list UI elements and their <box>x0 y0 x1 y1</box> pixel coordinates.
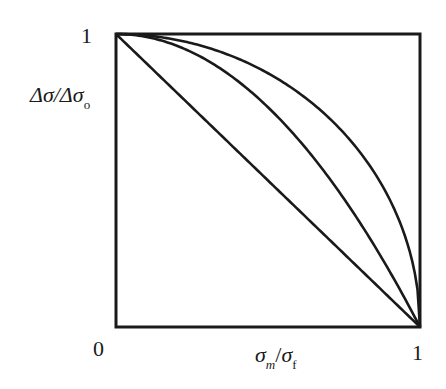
y-axis-title: Δσ/Δσo <box>30 84 90 106</box>
x-axis-title-denominator-subscript: f <box>292 357 296 372</box>
series-line-1 <box>116 34 420 327</box>
chart-plot <box>0 0 446 389</box>
x-tick-1: 1 <box>412 342 423 364</box>
y-axis-title-main: Δσ/Δσ <box>30 82 84 107</box>
x-axis-title-numerator: σ <box>255 342 266 367</box>
x-axis-title-denominator: σ <box>281 342 292 367</box>
x-axis-title: σm/σf <box>255 344 297 366</box>
y-tick-1: 1 <box>81 25 92 47</box>
series-group <box>116 34 420 327</box>
y-axis-title-subscript: o <box>84 97 91 112</box>
x-axis-title-numerator-subscript: m <box>266 357 275 372</box>
x-tick-0: 0 <box>93 338 104 360</box>
